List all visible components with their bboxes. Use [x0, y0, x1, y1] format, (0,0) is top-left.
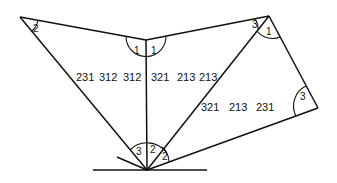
- angle-label-right-apex-left: 3: [252, 19, 258, 30]
- seq-right-3: 231: [256, 101, 274, 113]
- angle-label-right-corner: 3: [300, 91, 306, 102]
- angle-label-bottom-middle: 2: [150, 144, 156, 155]
- seq-left-1: 231: [76, 71, 94, 83]
- seq-mid-2: 213: [177, 71, 195, 83]
- edge-right-diagonal: [147, 16, 269, 170]
- angle-label-bottom-left: 3: [136, 146, 142, 157]
- angle-label-top-center-right: 1: [151, 45, 157, 56]
- edge-left-top: [20, 17, 146, 40]
- seq-mid-3: 213: [199, 71, 217, 83]
- angle-label-right-apex-right: 1: [266, 26, 272, 37]
- edge-top-right: [146, 16, 269, 40]
- seq-mid-1: 321: [151, 71, 169, 83]
- edge-center-vertical: [146, 40, 147, 170]
- edge-bottom-right: [147, 108, 318, 170]
- seq-right-2: 213: [229, 101, 247, 113]
- angle-label-left-apex: 2: [33, 23, 39, 34]
- edge-right-outer: [269, 16, 318, 108]
- seq-right-1: 321: [201, 101, 219, 113]
- angle-label-top-center-left: 1: [134, 45, 140, 56]
- edge-left-bottom: [20, 17, 147, 170]
- geometric-diagram: 2 1 1 3 1 3 3 2 2 231 312 312 321 213 21…: [0, 0, 337, 183]
- seq-left-3: 312: [123, 71, 141, 83]
- seq-left-2: 312: [99, 71, 117, 83]
- angle-label-bottom-right: 2: [162, 151, 168, 162]
